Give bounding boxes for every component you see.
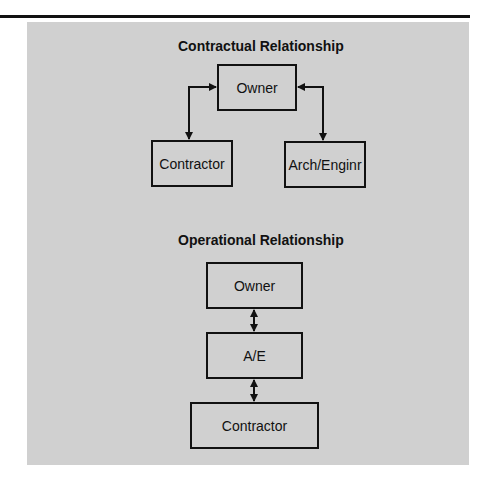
operational-title: Operational Relationship [178, 232, 344, 248]
top-rule [0, 15, 470, 18]
contractual-owner-node: Owner [217, 64, 297, 111]
contractual-title: Contractual Relationship [178, 38, 344, 54]
operational-ae-node: A/E [206, 332, 303, 379]
contractual-architect-node: Arch/Enginr [284, 141, 366, 188]
contractual-contractor-node: Contractor [151, 140, 233, 187]
operational-contractor-node: Contractor [190, 402, 319, 449]
operational-owner-node: Owner [206, 262, 303, 309]
